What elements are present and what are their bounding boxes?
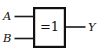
input-label-a: A <box>2 9 11 23</box>
logic-gate-diagram: =1 A B Y <box>0 0 104 54</box>
gate-svg-canvas: =1 A B Y <box>0 0 104 54</box>
input-label-b: B <box>2 31 11 45</box>
gate-operator-label: =1 <box>40 19 59 34</box>
output-label-y: Y <box>88 20 97 34</box>
